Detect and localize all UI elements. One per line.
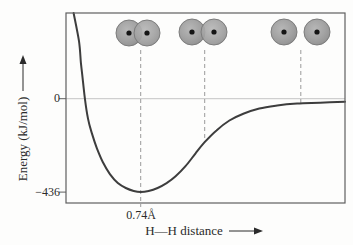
bond-length-annotation: 0.74Å	[109, 208, 173, 222]
h-nucleus-dot	[189, 29, 194, 34]
up-arrow-icon	[19, 55, 27, 91]
y-tick-label-zero: 0	[40, 91, 60, 105]
right-arrow-icon	[229, 227, 263, 235]
chart-layer	[59, 13, 345, 207]
h-nucleus-dot	[281, 29, 286, 34]
molecule-separated-pair	[271, 19, 330, 45]
x-axis-label: H—H distance	[116, 222, 292, 240]
potential-energy-figure: 0 −436 0.74Å Energy (kJ/mol) H—H distanc…	[0, 0, 353, 245]
h-nucleus-dot	[314, 29, 319, 34]
y-axis-label-text: Energy (kJ/mol)	[15, 97, 31, 182]
plot-canvas	[0, 0, 353, 245]
molecule-bonded-pair	[116, 20, 160, 46]
h-nucleus-dot	[211, 29, 216, 34]
molecule-partial-overlap-pair	[179, 19, 227, 45]
h-nucleus-dot	[126, 30, 131, 35]
x-axis-label-text: H—H distance	[145, 223, 223, 239]
y-axis-label: Energy (kJ/mol)	[13, 32, 33, 204]
h-nucleus-dot	[144, 30, 149, 35]
